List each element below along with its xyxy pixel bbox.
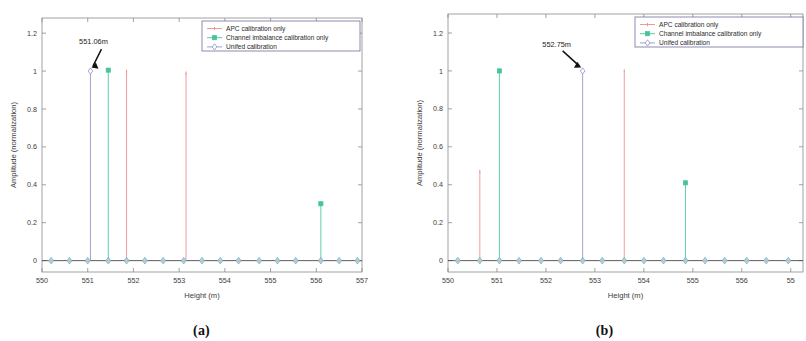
svg-text:556: 556: [736, 276, 748, 285]
svg-text:0.2: 0.2: [433, 218, 443, 227]
svg-text:55: 55: [787, 276, 795, 285]
svg-text:551: 551: [491, 276, 503, 285]
svg-text:Unifed calibration: Unifed calibration: [659, 39, 710, 46]
svg-text:0.6: 0.6: [27, 142, 37, 151]
svg-text:Channel imbalance calibration: Channel imbalance calibration only: [226, 34, 329, 42]
svg-text:555: 555: [687, 276, 699, 285]
panel-b-caption: (b): [403, 323, 806, 339]
svg-text:0.2: 0.2: [27, 218, 37, 227]
svg-text:0.8: 0.8: [27, 105, 37, 114]
svg-text:Amplitude (normalization): Amplitude (normalization): [9, 101, 18, 188]
svg-text:Amplitude (normalization): Amplitude (normalization): [415, 99, 424, 186]
svg-text:552: 552: [127, 276, 139, 285]
svg-text:Channel imbalance calibration: Channel imbalance calibration only: [659, 30, 762, 38]
svg-text:1.2: 1.2: [433, 29, 443, 38]
svg-text:Height (m): Height (m): [184, 291, 220, 300]
svg-text:1: 1: [33, 67, 37, 76]
svg-text:0: 0: [33, 256, 37, 265]
svg-text:551.06m: 551.06m: [79, 37, 108, 46]
svg-text:0.4: 0.4: [433, 180, 443, 189]
svg-text:APC calibration only: APC calibration only: [659, 21, 719, 29]
svg-text:553: 553: [589, 276, 601, 285]
svg-text:550: 550: [442, 276, 454, 285]
chart-panel-b: 5505515525535545555565500.20.40.60.811.2…: [403, 0, 806, 312]
svg-text:557: 557: [356, 276, 368, 285]
panel-a-caption: (a): [0, 323, 403, 339]
panel-b: 5505515525535545555565500.20.40.60.811.2…: [403, 0, 806, 341]
svg-text:0.8: 0.8: [433, 104, 443, 113]
svg-text:554: 554: [638, 276, 650, 285]
svg-text:0: 0: [439, 256, 443, 265]
svg-text:1: 1: [439, 67, 443, 76]
panel-a: 55055155255355455555655700.20.40.60.811.…: [0, 0, 403, 341]
chart-panel-a: 55055155255355455555655700.20.40.60.811.…: [0, 0, 403, 312]
svg-text:Unifed calibration: Unifed calibration: [226, 43, 277, 50]
svg-text:552.75m: 552.75m: [542, 40, 571, 49]
svg-text:554: 554: [219, 276, 231, 285]
svg-text:555: 555: [265, 276, 277, 285]
svg-text:556: 556: [310, 276, 322, 285]
svg-text:551: 551: [82, 276, 94, 285]
svg-text:APC calibration only: APC calibration only: [226, 25, 286, 33]
svg-text:0.6: 0.6: [433, 142, 443, 151]
svg-text:0.4: 0.4: [27, 180, 37, 189]
svg-text:553: 553: [173, 276, 185, 285]
svg-text:1.2: 1.2: [27, 29, 37, 38]
svg-text:Height (m): Height (m): [608, 291, 644, 300]
svg-text:550: 550: [36, 276, 48, 285]
figure-two-panel-stem-plots: 55055155255355455555655700.20.40.60.811.…: [0, 0, 806, 341]
svg-text:552: 552: [540, 276, 552, 285]
